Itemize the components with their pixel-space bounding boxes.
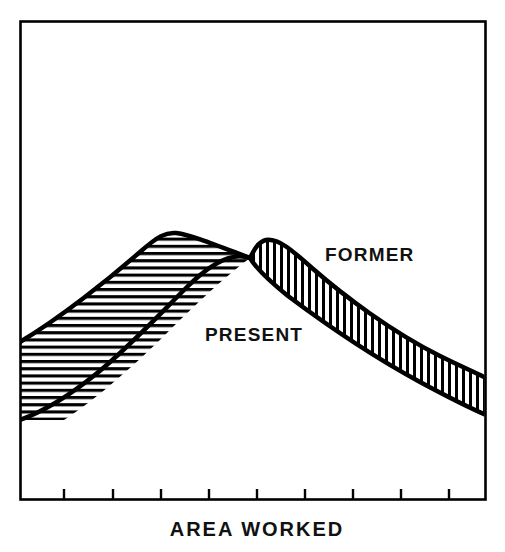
series-label-present: PRESENT — [205, 324, 303, 345]
figure-background — [0, 0, 505, 552]
x-axis-title: AREA WORKED — [170, 518, 345, 540]
figure-root: FORMER PRESENT AREA WORKED — [0, 0, 505, 552]
series-label-former: FORMER — [325, 244, 415, 265]
area-chart-figure: FORMER PRESENT AREA WORKED — [0, 0, 505, 552]
